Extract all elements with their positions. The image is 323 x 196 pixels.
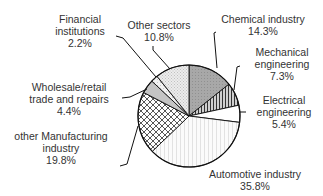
slice-label-line: Other sectors [127,19,190,31]
slice-label-line: engineering [255,58,310,70]
slice-label-line: 7.3% [255,70,310,82]
slice-label-line: 2.2% [55,37,105,49]
slice-label: Financialinstitutions2.2% [55,13,105,49]
slice-label-line: 19.8% [14,154,107,166]
slice-label: Wholesale/retailtrade and repairs4.4% [29,81,108,117]
slice-label-line: industry [14,142,107,154]
slice-label-line: 4.4% [29,105,108,117]
slice-label-line: institutions [55,25,105,37]
slice-label: Automotive industry35.8% [209,168,301,192]
slice-label: Other sectors10.8% [127,19,190,43]
slice-label-line: 10.8% [127,31,190,43]
slice-label: Electricalengineering5.4% [257,94,312,130]
leader-line [120,126,138,166]
slice-label-line: Mechanical [255,46,310,58]
leader-line [234,66,240,90]
slice-label-line: Chemical industry [221,13,304,25]
slice-label-line: other Manufacturing [14,130,107,142]
slice-label-line: 14.3% [221,25,304,37]
slice-label-line: Wholesale/retail [29,81,108,93]
slice-label-line: engineering [257,106,312,118]
slice-label-line: Financial [55,13,105,25]
leader-line [214,32,217,68]
slice-label-line: trade and repairs [29,93,108,105]
slice-label-line: 35.8% [209,180,301,192]
leader-line [153,46,170,69]
slice-label: Mechanicalengineering7.3% [255,46,310,82]
slice-label-line: 5.4% [257,118,312,130]
slice-label: other Manufacturingindustry19.8% [14,130,107,166]
slice-label-line: Automotive industry [209,168,301,180]
slice-label-line: Electrical [257,94,312,106]
slice-label: Chemical industry14.3% [221,13,304,37]
